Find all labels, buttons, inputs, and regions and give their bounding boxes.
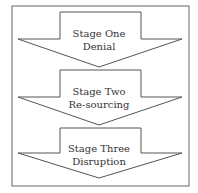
stage-one-label: Stage One Denial [0,27,198,53]
stage-three-title: Stage Three [0,142,198,155]
stage-two-subtitle: Re-sourcing [0,98,198,111]
stage-two-label: Stage Two Re-sourcing [0,85,198,111]
stage-three-subtitle: Disruption [0,155,198,168]
stage-three-label: Stage Three Disruption [0,142,198,168]
stage-two-title: Stage Two [0,85,198,98]
stage-one-subtitle: Denial [0,40,198,53]
stage-diagram: Stage One Denial Stage Two Re-sourcing S… [0,0,198,193]
stage-one-title: Stage One [0,27,198,40]
